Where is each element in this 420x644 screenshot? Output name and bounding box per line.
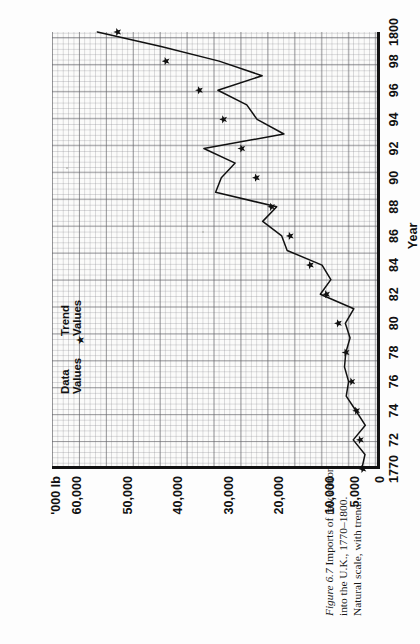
y-axis-tick-label: 40,000	[171, 476, 185, 515]
trend-star-marker	[322, 290, 330, 298]
trend-star-marker	[306, 261, 314, 269]
chart-plot-area: Data Values ★ Trend Values	[52, 32, 380, 469]
legend-trend-values: Trend Values	[60, 300, 83, 336]
x-axis-tick-label: 80	[387, 316, 401, 330]
x-axis-tick-label: 1800	[387, 18, 401, 46]
x-axis-tick-label: 98	[387, 54, 401, 68]
trend-star-marker	[237, 144, 245, 152]
y-axis-tick-label: 0	[373, 476, 387, 483]
trend-star-marker	[113, 28, 121, 36]
x-axis-tick-label: 96	[387, 83, 401, 97]
trend-star-marker	[252, 174, 260, 182]
y-axis-tick-label: 10,000	[323, 476, 337, 515]
x-axis-tick-label: 86	[387, 229, 401, 243]
x-axis-tick-label: 90	[387, 171, 401, 185]
x-axis-tick-label: 76	[387, 375, 401, 389]
figure-page: Figure 6.7 Imports of raw cotton into th…	[0, 0, 420, 644]
trend-star-marker	[286, 232, 294, 240]
x-axis-tick-label: 1770	[387, 455, 401, 483]
figure-plate: Figure 6.7 Imports of raw cotton into th…	[0, 0, 420, 644]
x-axis-tick-label: 92	[387, 142, 401, 156]
trend-star-marker	[195, 86, 203, 94]
y-axis-unit-label: '000 lb	[49, 476, 63, 515]
trend-star-marker	[162, 57, 170, 65]
x-axis-tick-label: 84	[387, 258, 401, 272]
chart-svg-layer	[52, 32, 380, 469]
x-axis-tick-label: 94	[387, 112, 401, 126]
x-axis-title: Year	[406, 223, 420, 250]
trend-star-marker	[356, 436, 364, 444]
y-axis-tick-label: 20,000	[272, 476, 286, 515]
data-values-line	[97, 32, 365, 469]
y-axis-tick-label: 5,000	[348, 476, 362, 508]
paper-speck	[202, 231, 204, 233]
x-axis-tick-label: 78	[387, 345, 401, 359]
trend-star-marker	[334, 319, 342, 327]
x-axis-tick-label: 72	[387, 433, 401, 447]
trend-star-marker	[342, 348, 350, 356]
figure-number: Figure 6.7	[323, 568, 335, 616]
y-axis-tick-label: 50,000	[121, 476, 135, 515]
legend-star-icon: ★	[74, 335, 87, 345]
y-axis-tick-label: 30,000	[222, 476, 236, 515]
x-axis-tick-label: 88	[387, 200, 401, 214]
y-axis-tick-label: 60,000	[70, 476, 84, 515]
paper-speck	[66, 167, 68, 169]
x-axis-tick-label: 82	[387, 287, 401, 301]
x-axis-tick-label: 74	[387, 404, 401, 418]
legend-data-values: Data Values	[60, 358, 83, 394]
trend-star-marker	[219, 115, 227, 123]
trend-values-markers	[113, 28, 366, 473]
